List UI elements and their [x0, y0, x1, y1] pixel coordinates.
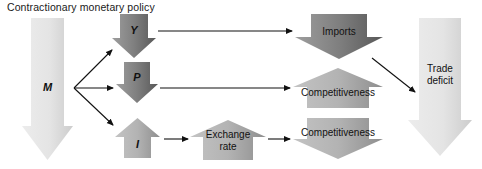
diagram-nodes — [22, 14, 472, 160]
node-money-supply — [22, 18, 73, 160]
connector-m-to-y — [74, 50, 112, 88]
node-interest-rate — [115, 118, 160, 158]
node-competitiveness-exchange — [293, 118, 383, 159]
node-trade-deficit — [408, 18, 472, 156]
node-imports — [295, 14, 383, 59]
diagram-canvas: Contractionary monetary policy — [0, 0, 482, 169]
connector-m-to-i — [74, 88, 113, 125]
diagram-svg-layer — [0, 0, 482, 169]
node-price-level — [116, 62, 158, 103]
node-exchange-rate — [190, 120, 266, 160]
node-competitiveness-price — [293, 68, 383, 108]
node-output — [112, 14, 156, 58]
